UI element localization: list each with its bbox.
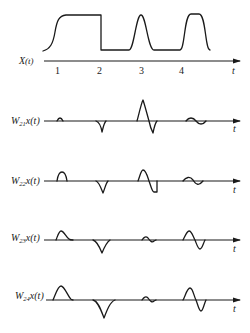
panel-w24: W24x(t) t [15, 286, 240, 318]
tick-label-4: 4 [179, 65, 184, 76]
w23-t-label: t [233, 243, 236, 254]
signal-waveform [43, 14, 210, 51]
w23-waveform [56, 231, 205, 253]
w21-waveform [57, 100, 206, 133]
signal-t-label: t [232, 65, 235, 76]
w24-waveform [53, 286, 206, 318]
panel-w23: W23x(t) t [11, 231, 240, 254]
w22-t-label: t [233, 184, 236, 195]
w22-label: W22x(t) [11, 175, 40, 187]
w21-label: W21x(t) [11, 115, 40, 127]
w21-t-label: t [233, 123, 236, 134]
w23-label: W23x(t) [11, 232, 40, 244]
tick-label-1: 1 [55, 65, 60, 76]
w24-label: W24x(t) [15, 290, 44, 302]
wavelet-decomposition-diagram: X(t) 1 2 3 4 t W21x(t) t W22x(t) t W23x(… [0, 0, 250, 333]
signal-label: X(t) [18, 55, 34, 66]
panel-w22: W22x(t) t [11, 170, 240, 195]
w24-t-label: t [233, 303, 236, 314]
tick-label-3: 3 [139, 65, 144, 76]
signal-panel: X(t) 1 2 3 4 t [18, 14, 240, 76]
tick-label-2: 2 [97, 65, 102, 76]
panel-w21: W21x(t) t [11, 100, 240, 134]
